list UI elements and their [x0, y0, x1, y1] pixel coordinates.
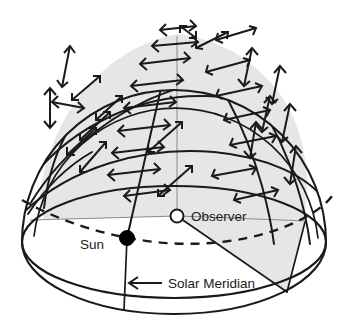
observer-marker — [171, 210, 184, 223]
hemisphere-figure: Sun Observer Solar Meridian — [0, 0, 348, 328]
sun-label: Sun — [80, 237, 104, 252]
solar-meridian-label: Solar Meridian — [168, 276, 255, 291]
polarization-arrow — [44, 88, 56, 128]
observer-label: Observer — [191, 209, 247, 224]
sky-polarization-diagram: Sun Observer Solar Meridian — [0, 0, 348, 328]
sun-marker — [120, 231, 135, 246]
polarization-arrow — [57, 46, 75, 87]
